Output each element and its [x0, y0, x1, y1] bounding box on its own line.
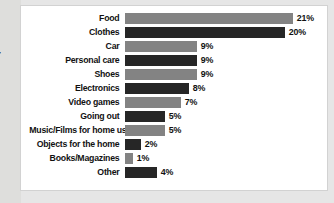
bar-category-label: Objects for the home: [29, 139, 125, 149]
bar-category-label: Personal care: [29, 55, 125, 65]
bar-row: Objects for the home2%: [21, 137, 327, 151]
bar-track: 2%: [125, 137, 327, 151]
page-root: r Food21%Clothes20%Car9%Personal care9%S…: [0, 0, 334, 203]
bar-track: 4%: [125, 165, 327, 179]
bar-track: 5%: [125, 109, 327, 123]
bar-category-label: Video games: [29, 97, 125, 107]
bar-track: 9%: [125, 39, 327, 53]
bar-row: Shoes9%: [21, 67, 327, 81]
bar-row: Electronics8%: [21, 81, 327, 95]
bar-category-label: Car: [29, 41, 125, 51]
bar-row: Going out5%: [21, 109, 327, 123]
bar-category-label: Clothes: [29, 27, 125, 37]
bar-row: Clothes20%: [21, 25, 327, 39]
bar-category-label: Going out: [29, 111, 125, 121]
bar-category-label: Books/Magazines: [29, 153, 125, 163]
bar-category-label: Electronics: [29, 83, 125, 93]
bar-value-label: 9%: [197, 55, 213, 65]
bar-category-label: Other: [29, 167, 125, 177]
bar-value-label: 7%: [181, 97, 197, 107]
bar-row: Personal care9%: [21, 53, 327, 67]
bar-value-label: 20%: [285, 27, 306, 37]
bar-track: 9%: [125, 67, 327, 81]
bar-track: 8%: [125, 81, 327, 95]
bar-value-label: 9%: [197, 69, 213, 79]
bar: [125, 83, 189, 94]
bar-row: Books/Magazines1%: [21, 151, 327, 165]
bar-value-label: 4%: [157, 167, 173, 177]
bar: [125, 69, 197, 80]
bar-value-label: 8%: [189, 83, 205, 93]
bar-value-label: 5%: [165, 111, 181, 121]
bar-track: 20%: [125, 25, 327, 39]
bar-value-label: 5%: [165, 125, 181, 135]
bar: [125, 111, 165, 122]
bar: [125, 125, 165, 136]
bar-category-label: Food: [29, 13, 125, 23]
bar-chart-plot-area: Food21%Clothes20%Car9%Personal care9%Sho…: [21, 11, 327, 187]
bar-row: Music/Films for home use5%: [21, 123, 327, 137]
bar-track: 9%: [125, 53, 327, 67]
bar-row: Other4%: [21, 165, 327, 179]
bar: [125, 97, 181, 108]
bar-value-label: 2%: [141, 139, 157, 149]
bar: [125, 41, 197, 52]
bar-track: 1%: [125, 151, 327, 165]
bar: [125, 139, 141, 150]
chart-card: Food21%Clothes20%Car9%Personal care9%Sho…: [20, 5, 328, 191]
cropped-text-fragment: r: [0, 48, 9, 62]
bar: [125, 55, 197, 66]
bar-category-label: Music/Films for home use: [29, 125, 125, 135]
bar-track: 21%: [125, 11, 327, 25]
bar-row: Car9%: [21, 39, 327, 53]
bar-track: 7%: [125, 95, 327, 109]
bar-row: Food21%: [21, 11, 327, 25]
page-left-gutter: r: [0, 0, 21, 203]
bar-value-label: 1%: [133, 153, 149, 163]
bar-row: Video games7%: [21, 95, 327, 109]
bar-track: 5%: [125, 123, 327, 137]
bar: [125, 13, 293, 24]
bar: [125, 167, 157, 178]
bar-value-label: 9%: [197, 41, 213, 51]
bar-value-label: 21%: [293, 13, 314, 23]
bar-category-label: Shoes: [29, 69, 125, 79]
bar: [125, 27, 285, 38]
bar: [125, 153, 133, 164]
